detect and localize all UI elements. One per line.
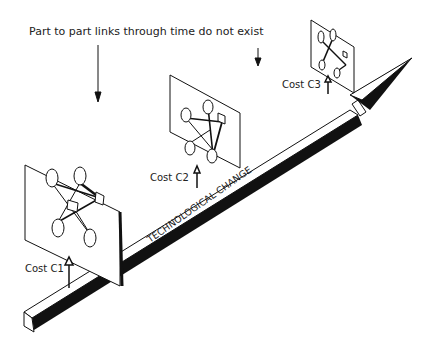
technological-change-diagram: Part to part links through time do not e…	[0, 0, 436, 355]
assembly-plane-2	[170, 75, 240, 168]
title-note: Part to part links through time do not e…	[29, 25, 264, 38]
cost-label-c2: Cost C2	[150, 172, 189, 183]
cost-arrow-c2	[194, 166, 200, 188]
cost-label-c3: Cost C3	[282, 79, 321, 90]
cost-arrow-c3	[325, 76, 331, 94]
cost-label-c1: Cost C1	[25, 263, 64, 274]
